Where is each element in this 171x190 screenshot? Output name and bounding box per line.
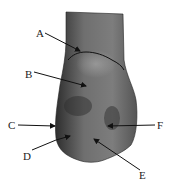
- bone-diagram: A B C D E F: [0, 0, 171, 190]
- bone-highlight: [76, 50, 116, 78]
- label-C: C: [8, 119, 55, 131]
- svg-text:A: A: [36, 27, 44, 39]
- svg-text:F: F: [157, 119, 163, 131]
- svg-text:D: D: [23, 150, 31, 162]
- svg-text:E: E: [139, 169, 146, 181]
- svg-text:C: C: [8, 119, 15, 131]
- bone-silhouette: [55, 12, 136, 162]
- bone-shadow-left: [64, 96, 92, 116]
- svg-text:B: B: [25, 68, 32, 80]
